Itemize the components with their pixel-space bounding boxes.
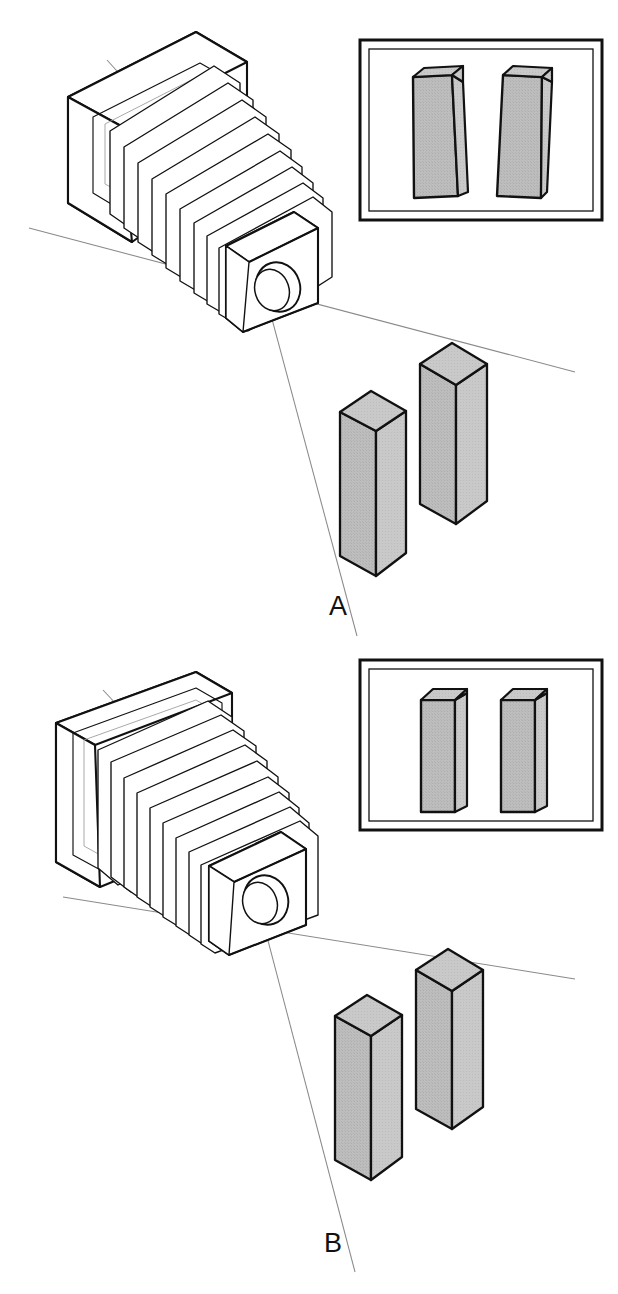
subject-block-near-front-a xyxy=(340,412,376,576)
inset-block-right-a xyxy=(497,66,552,198)
perspective-control-figure: A xyxy=(0,0,618,1294)
panel-label-a: A xyxy=(329,591,347,621)
inset-frame-b xyxy=(360,660,602,830)
back-standard-left-b xyxy=(56,723,100,887)
subject-block-near-b xyxy=(335,995,402,1180)
inset-frame-a xyxy=(360,40,602,220)
subject-block-near-a xyxy=(340,391,406,576)
subject-block-far-front-b xyxy=(416,970,452,1129)
subject-block-near-side-a xyxy=(376,411,406,576)
subject-block-far-side-a xyxy=(456,364,487,524)
subject-block-far-a xyxy=(420,343,487,524)
subject-block-far-b xyxy=(416,949,483,1129)
inset-block-left-front-b xyxy=(421,700,455,812)
inset-block-right-b xyxy=(501,689,547,812)
inset-block-right-front-b xyxy=(501,700,535,812)
subject-block-far-side-b xyxy=(452,970,483,1129)
lens-board-left-b xyxy=(209,866,234,955)
inset-block-right-side-b xyxy=(535,693,547,812)
inset-inner-border-a xyxy=(369,49,593,211)
subject-block-near-side-b xyxy=(371,1015,402,1180)
subject-block-far-front-a xyxy=(420,364,456,524)
inset-block-left-side-b xyxy=(455,693,467,812)
inset-block-left-a xyxy=(413,66,468,198)
inset-block-right-front-a xyxy=(497,75,542,198)
inset-inner-border-b xyxy=(369,669,593,821)
panel-label-b: B xyxy=(324,1228,342,1258)
inset-block-left-front-a xyxy=(413,75,458,198)
subject-block-near-front-b xyxy=(335,1016,371,1180)
inset-block-left-b xyxy=(421,689,467,812)
